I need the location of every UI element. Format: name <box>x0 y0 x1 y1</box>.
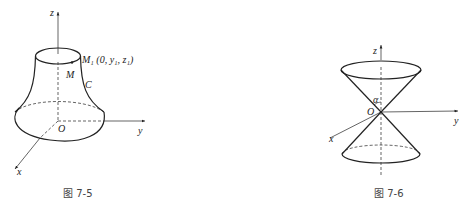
lower-cone-left-edge <box>342 112 381 154</box>
left-profile <box>15 56 36 112</box>
y-label: y <box>453 115 459 126</box>
origin-label: O <box>367 106 374 117</box>
point-m1-label: M₁ (0, y₁, z₁) <box>81 54 134 66</box>
x-axis <box>15 138 40 169</box>
y-axis <box>381 111 458 112</box>
x-label: x <box>328 133 334 144</box>
caption-7-6: 图 7-6 <box>374 188 404 199</box>
origin-label: O <box>58 123 65 134</box>
curve-c-label: C <box>85 79 92 90</box>
figure-7-5: z y x O M₁ (0, y₁, z₁) M C 图 7-5 <box>15 7 145 199</box>
caption-7-5: 图 7-5 <box>63 188 93 199</box>
y-label: y <box>137 125 143 136</box>
x-axis-hidden <box>40 121 58 138</box>
point-m-dot <box>71 61 73 63</box>
z-label: z <box>49 7 54 18</box>
figure-7-6: z y x O α 图 7-6 <box>328 45 459 199</box>
lower-cone-right-edge <box>381 112 420 154</box>
diagram-canvas: z y x O M₁ (0, y₁, z₁) M C 图 7-5 z y x O… <box>0 0 469 210</box>
bottom-circle-back <box>15 102 104 113</box>
upper-cone-left-edge <box>341 70 381 112</box>
point-m-label: M <box>65 69 75 80</box>
upper-cone-right-edge <box>381 70 421 112</box>
x-label: x <box>16 166 22 177</box>
z-label: z <box>372 45 377 56</box>
angle-label: α <box>373 94 379 105</box>
